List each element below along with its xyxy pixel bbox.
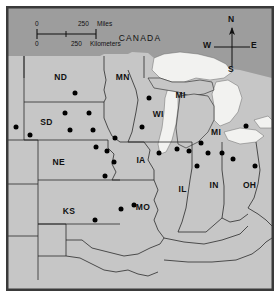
map-marker-dot xyxy=(93,217,98,222)
state-label-mo-12: MO xyxy=(136,202,150,212)
state-label-in-9: IN xyxy=(210,180,219,190)
state-label-mi-5: MI xyxy=(211,127,221,137)
state-label-oh-10: OH xyxy=(243,180,256,190)
map-marker-dot xyxy=(14,124,19,129)
map-marker-dot xyxy=(105,149,110,154)
state-label-wi-4: WI xyxy=(153,109,164,119)
map-frame: 0 250 Miles 0 250 Kilometers N S W E CAN… xyxy=(6,6,274,291)
state-label-mn-1: MN xyxy=(116,72,130,82)
map-marker-dot xyxy=(87,111,92,116)
map-marker-dot xyxy=(147,96,152,101)
map-marker-dot xyxy=(243,123,248,128)
state-label-ks-11: KS xyxy=(63,206,75,216)
map-figure: 0 250 Miles 0 250 Kilometers N S W E CAN… xyxy=(0,0,280,297)
map-marker-dot xyxy=(62,111,67,116)
state-label-sd-2: SD xyxy=(40,117,52,127)
map-marker-dot xyxy=(91,127,96,132)
map-marker-dot xyxy=(205,151,210,156)
map-marker-dot xyxy=(112,135,117,140)
state-label-il-8: IL xyxy=(179,184,187,194)
map-marker-dot xyxy=(131,202,136,207)
state-label-mi-3: MI xyxy=(176,90,186,100)
map-marker-dot xyxy=(252,164,257,169)
map-marker-dot xyxy=(220,151,225,156)
map-marker-dot xyxy=(198,140,203,145)
map-marker-dot xyxy=(140,124,145,129)
map-marker-dot xyxy=(103,174,108,179)
state-label-nd-0: ND xyxy=(54,72,67,82)
map-marker-dot xyxy=(94,144,99,149)
map-marker-dot xyxy=(67,127,72,132)
map-marker-dot xyxy=(28,132,33,137)
state-label-ia-7: IA xyxy=(136,155,145,165)
map-overlay-layer: CANADANDMNSDMIWIMINEIAILINOHKSMO xyxy=(8,8,272,289)
map-marker-dot xyxy=(231,157,236,162)
map-marker-dot xyxy=(194,164,199,169)
map-marker-dot xyxy=(73,91,78,96)
state-label-ne-6: NE xyxy=(53,157,65,167)
map-marker-dot xyxy=(111,160,116,165)
map-marker-dot xyxy=(186,149,191,154)
country-label-canada: CANADA xyxy=(119,33,162,43)
map-marker-dot xyxy=(118,206,123,211)
map-marker-dot xyxy=(174,146,179,151)
map-marker-dot xyxy=(157,151,162,156)
